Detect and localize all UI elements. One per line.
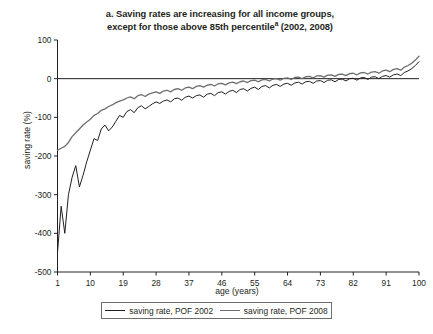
legend-item-2008[interactable]: saving rate, POF 2008	[220, 306, 328, 316]
y-axis-tick-label: -200	[35, 151, 52, 161]
chart-legend: saving rate, POF 2002 saving rate, POF 2…	[101, 302, 332, 319]
y-axis-tick-label: 100	[38, 35, 52, 45]
chart-svg: 1000-100-200-300-400-5001101928374655647…	[0, 0, 433, 300]
legend-item-2002[interactable]: saving rate, POF 2002	[105, 306, 213, 316]
y-axis-tick-label: -300	[35, 190, 52, 200]
x-axis-label: age (years)	[57, 286, 417, 296]
series-line-saving-rate-pof-2002	[58, 62, 420, 253]
legend-label-2002: saving rate, POF 2002	[129, 306, 213, 316]
series-line-saving-rate-pof-2008	[58, 56, 420, 150]
legend-swatch-2002	[105, 310, 125, 311]
legend-swatch-2008	[220, 310, 240, 311]
y-axis-tick-label: 0	[47, 74, 52, 84]
y-axis-tick-label: -500	[35, 267, 52, 277]
y-axis-tick-label: -100	[35, 112, 52, 122]
y-axis-tick-label: -400	[35, 228, 52, 238]
legend-label-2008: saving rate, POF 2008	[244, 306, 328, 316]
y-axis-label: saving rate (%)	[22, 95, 32, 185]
plot-area: 1000-100-200-300-400-5001101928374655647…	[0, 0, 433, 300]
figure-panel: a. Saving rates are increasing for all i…	[0, 0, 433, 334]
